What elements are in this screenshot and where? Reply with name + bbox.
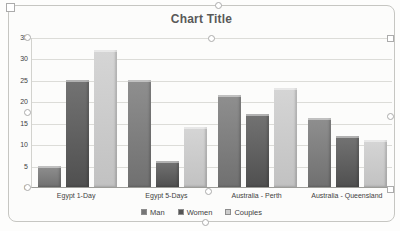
x-axis-category-label: Australia - Queensland [302, 192, 392, 199]
legend[interactable]: ManWomenCouples [9, 206, 394, 218]
y-axis-tick-label: 10 [9, 141, 28, 149]
bar-couples[interactable] [364, 140, 387, 187]
legend-swatch [225, 209, 231, 215]
bar-couples[interactable] [274, 88, 297, 187]
y-axis-tick-label: 5 [9, 163, 28, 171]
selection-handle-chart-top-center[interactable] [215, 2, 222, 9]
bar-women[interactable] [336, 136, 359, 187]
selection-handle-plot-top-left[interactable] [24, 34, 31, 41]
selection-handle-plot-bottom-left[interactable] [24, 184, 31, 191]
chart-area[interactable]: Chart Title 05101520253035 Egypt 1-DayEg… [8, 5, 395, 222]
bar-group [212, 38, 302, 187]
legend-item[interactable]: Man [141, 208, 165, 217]
bar-couples[interactable] [184, 127, 207, 187]
legend-item[interactable]: Couples [225, 208, 262, 217]
bar-man[interactable] [308, 118, 331, 187]
legend-item[interactable]: Women [178, 208, 213, 217]
selection-handle-plot-top-center[interactable] [208, 35, 215, 42]
x-axis-category-label: Egypt 5-Days [121, 192, 211, 199]
bar-man[interactable] [38, 166, 61, 187]
bar-group [122, 38, 212, 187]
legend-label: Man [150, 208, 165, 217]
legend-label: Couples [234, 208, 262, 217]
selection-handle-plot-top-right[interactable] [387, 35, 394, 42]
chart-title[interactable]: Chart Title [9, 12, 394, 26]
bar-couples[interactable] [94, 50, 117, 187]
selection-handle-plot-bottom-right[interactable] [387, 186, 394, 193]
bar-group [32, 38, 122, 187]
bar-man[interactable] [218, 95, 241, 187]
legend-label: Women [187, 208, 213, 217]
y-axis-tick-label: 15 [9, 120, 28, 128]
y-axis-tick-label: 30 [9, 55, 28, 63]
bar-group [302, 38, 392, 187]
bar-man[interactable] [128, 80, 151, 187]
bars-container [32, 38, 392, 187]
selection-handle-plot-bottom-center[interactable] [205, 188, 212, 195]
x-axis-category-label: Egypt 1-Day [31, 192, 121, 199]
selection-handle-plot-middle-left[interactable] [24, 109, 31, 116]
y-axis-tick-label: 20 [9, 98, 28, 106]
legend-swatch [178, 209, 184, 215]
selection-handle-plot-middle-right[interactable] [387, 113, 394, 120]
worksheet-background: Chart Title 05101520253035 Egypt 1-DayEg… [0, 0, 400, 231]
bar-women[interactable] [156, 161, 179, 187]
x-axis-category-label: Australia - Perth [212, 192, 302, 199]
bar-women[interactable] [66, 80, 89, 187]
legend-swatch [141, 209, 147, 215]
plot-area[interactable] [31, 38, 392, 188]
y-axis-tick-label: 25 [9, 77, 28, 85]
bar-women[interactable] [246, 114, 269, 187]
selection-handle-chart-top-left[interactable] [6, 3, 15, 12]
selection-handle-chart-bottom-center[interactable] [202, 219, 209, 226]
